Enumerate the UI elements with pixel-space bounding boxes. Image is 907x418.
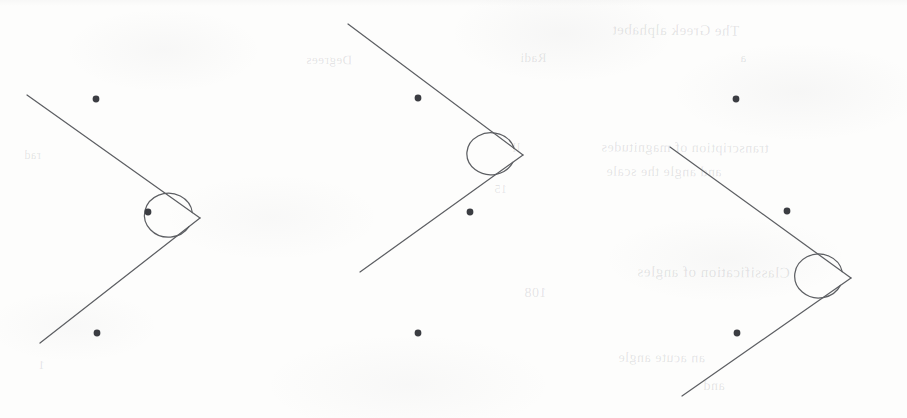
point-lower xyxy=(415,330,422,337)
reflex-angle-figure-1 xyxy=(27,95,200,343)
point-lower xyxy=(734,330,741,337)
point-middle xyxy=(145,209,152,216)
reflex-angle-arc xyxy=(795,254,843,298)
geometry-figure-layer xyxy=(0,0,907,418)
point-upper xyxy=(733,96,740,103)
point-upper xyxy=(93,96,100,103)
point-middle xyxy=(467,209,474,216)
angle-ray-lower xyxy=(682,278,851,396)
reflex-angle-figure-3 xyxy=(670,96,851,396)
scanned-figure-page: The Greek alphabetatranscription of magn… xyxy=(0,0,907,418)
reflex-angle-figure-2 xyxy=(348,24,523,336)
point-lower xyxy=(94,330,101,337)
angle-ray-upper xyxy=(670,147,851,278)
reflex-angle-arc xyxy=(467,133,514,175)
reflex-angle-arc xyxy=(144,193,192,237)
angle-ray-upper xyxy=(348,24,523,155)
angle-ray-lower xyxy=(360,155,523,272)
point-upper xyxy=(415,95,422,102)
angle-ray-upper xyxy=(27,95,200,218)
point-middle xyxy=(784,208,791,215)
